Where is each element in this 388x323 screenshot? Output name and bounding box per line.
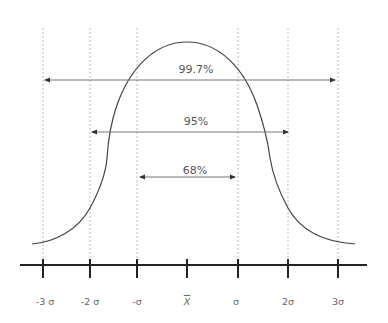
tick-label-minus-3sigma: -3 σ <box>36 297 55 307</box>
tick-label-mean: X <box>184 297 191 307</box>
tick-label-2sigma: 2σ <box>282 297 294 307</box>
tick-label-minus-sigma: -σ <box>132 297 141 307</box>
tick-label-sigma: σ <box>233 297 239 307</box>
diagram-canvas <box>0 0 388 323</box>
tick-label-3sigma: 3σ <box>332 297 344 307</box>
normal-distribution-diagram: 99.7% 95% 68% -3 σ -2 σ -σ X σ 2σ 3σ <box>0 0 388 323</box>
x-axis <box>20 259 367 278</box>
range-label-99-7: 99.7% <box>179 64 214 75</box>
range-arrows <box>45 80 335 177</box>
tick-label-minus-2sigma: -2 σ <box>81 297 100 307</box>
range-label-95: 95% <box>184 116 208 127</box>
range-label-68: 68% <box>183 165 207 176</box>
